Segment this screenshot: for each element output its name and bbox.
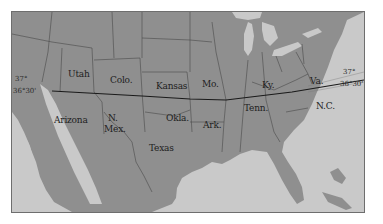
state-label-new-mexico-1: N.	[108, 114, 118, 123]
state-label-utah: Utah	[68, 70, 90, 79]
state-label-kansas: Kansas	[156, 82, 187, 91]
state-label-missouri: Mo.	[202, 80, 219, 89]
parallel-label-east-36-30: 36°30'	[340, 81, 363, 88]
state-label-oklahoma: Okla.	[166, 114, 189, 123]
state-label-new-mexico-2: Mex.	[104, 125, 126, 134]
state-label-north-carolina: N.C.	[316, 102, 335, 111]
state-label-texas: Texas	[149, 144, 174, 153]
parallel-label-east-37: 37°	[343, 69, 355, 76]
land-mass	[12, 12, 364, 212]
state-label-virginia: Va.	[310, 77, 323, 86]
us-map-graphic	[12, 12, 364, 212]
cuba-island	[322, 192, 352, 210]
parallel-label-west-37: 37°	[15, 76, 27, 83]
state-label-arizona: Arizona	[54, 116, 88, 125]
bahamas-islands	[330, 168, 346, 184]
state-label-kentucky: Ky.	[262, 81, 274, 90]
state-label-colorado: Colo.	[110, 76, 132, 85]
state-label-arkansas: Ark.	[203, 121, 221, 130]
state-label-tennessee: Tenn.	[244, 104, 268, 113]
map-frame: Utah Colo. Kansas Mo. Ky. Va. Arizona N.…	[11, 11, 365, 213]
parallel-label-west-36-30: 36°30'	[13, 88, 36, 95]
